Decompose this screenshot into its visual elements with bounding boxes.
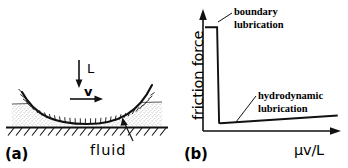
annotation-hydrodynamic-line2: lubrication bbox=[258, 103, 323, 116]
panel-a-bearing-schematic: L v fluid (a) bbox=[0, 0, 174, 168]
fluid-label: fluid bbox=[90, 142, 127, 158]
ground-hatching bbox=[8, 128, 166, 136]
x-axis-label: μv/L bbox=[294, 142, 324, 158]
annotation-hydrodynamic: hydrodynamic lubrication bbox=[258, 90, 323, 115]
annotation-boundary: boundary lubrication bbox=[234, 6, 284, 31]
load-label: L bbox=[87, 61, 94, 76]
annotation-boundary-line1: boundary bbox=[234, 6, 284, 19]
annotation-boundary-line2: lubrication bbox=[234, 19, 284, 32]
panel-b-tag: (b) bbox=[184, 145, 208, 163]
velocity-label: v bbox=[84, 84, 92, 99]
hydrodynamic-leader-line bbox=[236, 96, 256, 122]
figure-root: L v fluid (a) friction force μv/L bounda… bbox=[0, 0, 348, 168]
y-axis-arrow-icon bbox=[199, 9, 207, 20]
fluid-surface-right bbox=[140, 102, 162, 103]
boundary-leader-line bbox=[218, 13, 232, 22]
panel-a-tag: (a) bbox=[5, 145, 28, 163]
annotation-hydrodynamic-line1: hydrodynamic bbox=[258, 90, 323, 103]
panel-b-stribeck-curve: friction force μv/L boundary lubrication… bbox=[174, 0, 348, 168]
x-axis-arrow-icon bbox=[330, 127, 341, 135]
y-axis-label: friction force bbox=[190, 31, 206, 120]
